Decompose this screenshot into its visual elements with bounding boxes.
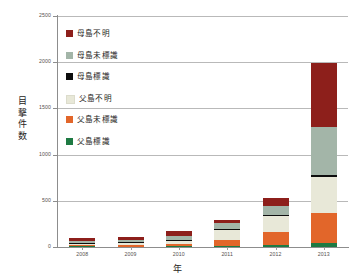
bar-segment <box>311 175 337 177</box>
y-tick-label: 2000 <box>39 58 51 64</box>
bar-segment <box>166 236 192 240</box>
bar-segment <box>214 230 240 240</box>
x-tick-mark <box>179 247 180 250</box>
x-tick-mark <box>227 247 228 250</box>
stacked-bar-chart: 05001000150020002500 目撃件数 20082009201020… <box>0 0 355 280</box>
y-tick-label: 1500 <box>39 104 51 110</box>
legend: 母島不明母島未標識母島標識父島不明父島未標識父島標識 <box>66 30 146 159</box>
bar-segment <box>214 220 240 223</box>
bar-segment <box>166 231 192 236</box>
y-tick: 2500 <box>0 12 51 20</box>
x-tick-label-2010: 2010 <box>159 251 199 257</box>
bar-segment <box>166 240 192 244</box>
x-tick-mark <box>131 247 132 250</box>
y-axis-title: 目撃件数 <box>16 96 28 142</box>
legend-swatch-hahajima-unknown <box>66 30 73 37</box>
legend-item[interactable]: 母島未標識 <box>66 52 146 74</box>
bar-segment <box>263 206 289 215</box>
x-tick-label-2011: 2011 <box>207 251 247 257</box>
bar-segment <box>311 213 337 242</box>
x-axis-title: 年 <box>0 262 355 275</box>
y-tick-label: 1000 <box>39 151 51 157</box>
legend-item[interactable]: 母島不明 <box>66 30 146 52</box>
legend-swatch-hahajima-tagged <box>66 73 73 80</box>
legend-item-label: 母島未標識 <box>77 52 118 60</box>
y-tick: 2000 <box>0 58 51 66</box>
bar-segment <box>263 216 289 232</box>
x-tick-mark <box>82 247 83 250</box>
bar-segment <box>118 240 144 242</box>
bar-segment <box>69 238 95 241</box>
legend-item-label: 父島標識 <box>77 138 110 146</box>
bar-2010 <box>166 16 192 247</box>
legend-item[interactable]: 父島標識 <box>66 138 146 160</box>
legend-swatch-chichijima-unknown <box>66 95 75 104</box>
x-tick-mark <box>324 247 325 250</box>
y-tick-label: 2500 <box>39 12 51 18</box>
legend-item-label: 父島不明 <box>79 95 112 103</box>
x-tick-mark <box>276 247 277 250</box>
bar-segment <box>69 243 95 245</box>
bar-segment <box>166 244 192 246</box>
bar-segment <box>69 241 95 243</box>
x-tick-label-2013: 2013 <box>304 251 344 257</box>
bar-segment <box>263 232 289 245</box>
legend-item-label: 母島標識 <box>77 73 110 81</box>
legend-item-label: 母島不明 <box>77 30 110 38</box>
legend-swatch-chichijima-tagged <box>66 138 73 145</box>
bar-segment <box>263 198 289 206</box>
bar-2012 <box>263 16 289 247</box>
bar-segment <box>118 237 144 241</box>
bar-segment <box>118 243 144 246</box>
bar-segment <box>214 240 240 246</box>
bar-segment <box>311 63 337 127</box>
x-axis-line <box>57 247 349 248</box>
x-tick-label-2009: 2009 <box>111 251 151 257</box>
bar-2013 <box>311 16 337 247</box>
x-tick-label-2012: 2012 <box>256 251 296 257</box>
legend-item[interactable]: 母島標識 <box>66 73 146 95</box>
y-tick-label: 0 <box>48 243 51 249</box>
bar-segment <box>311 177 337 214</box>
x-tick-label-2008: 2008 <box>62 251 102 257</box>
y-tick: 0 <box>0 243 51 251</box>
legend-item[interactable]: 父島未標識 <box>66 116 146 138</box>
legend-swatch-chichijima-untagged <box>66 116 73 123</box>
bar-segment <box>166 240 192 241</box>
legend-item[interactable]: 父島不明 <box>66 95 146 117</box>
legend-item-label: 父島未標識 <box>77 116 118 124</box>
y-tick-label: 500 <box>42 197 51 203</box>
bar-segment <box>311 127 337 175</box>
bar-segment <box>214 229 240 230</box>
y-tick: 1000 <box>0 151 51 159</box>
bar-segment <box>263 215 289 216</box>
y-tick: 500 <box>0 197 51 205</box>
bar-segment <box>214 223 240 229</box>
legend-swatch-hahajima-untagged <box>66 52 73 59</box>
bar-2011 <box>214 16 240 247</box>
